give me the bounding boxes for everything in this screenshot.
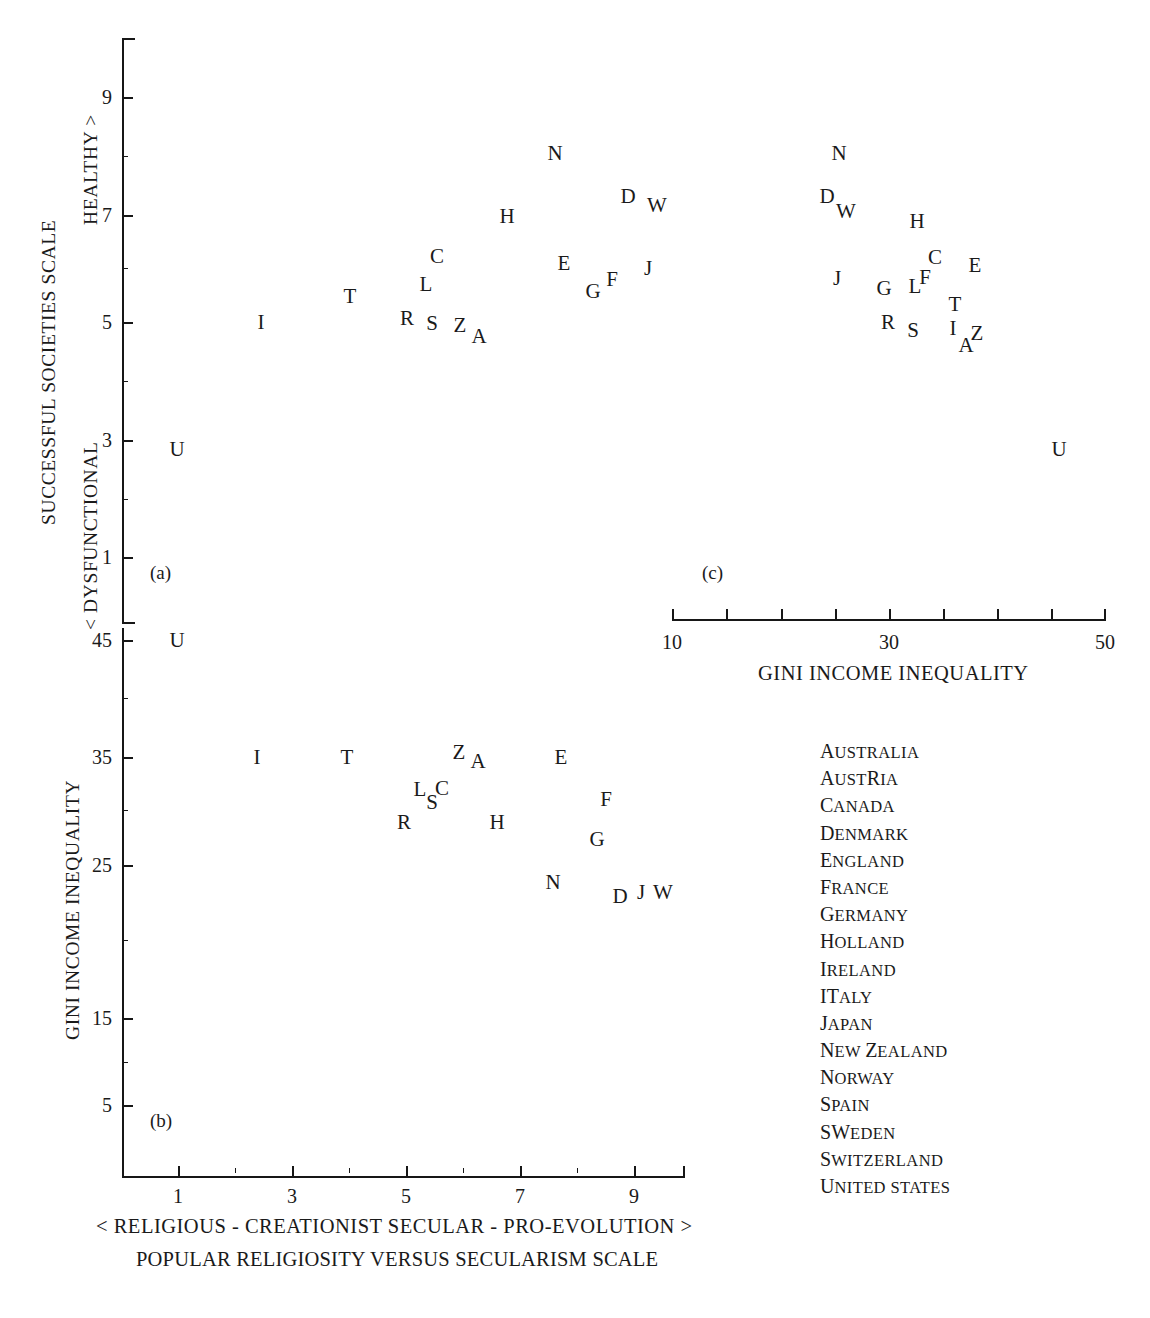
data-point-J: J <box>833 268 841 289</box>
panel-c-tag: (c) <box>702 562 723 584</box>
legend-item: JAPAN <box>820 1010 950 1037</box>
panel-b-xticklabel-5: 5 <box>386 1186 426 1206</box>
legend-rest: USTRALIA <box>834 743 919 762</box>
legend-item: ENGLAND <box>820 847 950 874</box>
data-point-H: H <box>489 812 504 833</box>
panel-a-y-axis-line <box>122 38 124 624</box>
panel-a-tick-minor <box>122 381 128 382</box>
legend-rest2: ALY <box>839 988 872 1007</box>
data-point-H: H <box>499 206 514 227</box>
panel-a-tick-minor <box>122 268 128 269</box>
legend-rest: UST <box>834 770 866 789</box>
panel-a-ticklabel-9: 9 <box>72 87 112 107</box>
data-point-D: D <box>819 186 834 207</box>
panel-b-tick-35 <box>122 757 133 759</box>
legend-item: SWITZERLAND <box>820 1146 950 1173</box>
legend-lead2: Z <box>865 1039 877 1061</box>
legend-rest2: EALAND <box>877 1042 947 1061</box>
data-point-D: D <box>612 886 627 907</box>
panel-a-tick-5 <box>122 322 133 324</box>
panel-a-y-axis-top-cap <box>122 38 135 40</box>
panel-b-xtick-9 <box>634 1166 636 1176</box>
panel-a-tag: (a) <box>150 562 171 584</box>
panel-c-tick <box>835 609 837 619</box>
legend-lead: H <box>820 930 834 952</box>
panel-b-xtick-minor <box>349 1168 350 1173</box>
legend-lead: A <box>820 767 834 789</box>
data-point-I: I <box>258 312 265 333</box>
panel-b-tick-15 <box>122 1018 133 1020</box>
legend-rest: PAIN <box>831 1096 870 1115</box>
legend-lead: U <box>820 1175 834 1197</box>
data-point-U: U <box>169 630 184 651</box>
legend-item: SWEDEN <box>820 1119 950 1146</box>
data-point-W: W <box>836 201 856 222</box>
panel-b-xtick-7 <box>520 1166 522 1176</box>
legend-rest: ERMANY <box>834 906 908 925</box>
legend-rest: ANADA <box>833 797 895 816</box>
panel-a-tick-3 <box>122 440 133 442</box>
panel-c-x-axis-right-cap <box>1104 609 1106 620</box>
legend-item: ITALY <box>820 983 950 1010</box>
legend-lead2: R <box>867 767 880 789</box>
panel-c-x-axis-title: GINI INCOME INEQUALITY <box>758 662 1029 685</box>
data-point-E: E <box>558 253 571 274</box>
legend-item: AUSTRALIA <box>820 738 950 765</box>
data-point-E: E <box>555 747 568 768</box>
panel-c-ticklabel-30: 30 <box>869 632 909 652</box>
legend-lead: F <box>820 876 831 898</box>
data-point-L: L <box>909 276 922 297</box>
legend-lead: D <box>820 822 834 844</box>
panel-c-tick <box>943 609 945 619</box>
legend-item: FRANCE <box>820 874 950 901</box>
figure-root: 9 7 5 3 1 SUCCESSFUL SOCIETIES SCALE HEA… <box>0 0 1150 1318</box>
panel-b-y-axis-title: GINI INCOME INEQUALITY <box>62 780 84 1040</box>
panel-b-tick-5 <box>122 1105 133 1107</box>
panel-b-tick-minor <box>122 1062 128 1063</box>
data-point-R: R <box>400 308 414 329</box>
panel-b-xticklabel-3: 3 <box>272 1186 312 1206</box>
religiosity-scale-ends-label: < RELIGIOUS - CREATIONIST SECULAR - PRO-… <box>96 1215 693 1238</box>
data-point-R: R <box>397 812 411 833</box>
panel-b-y-axis-line <box>122 628 124 1178</box>
religiosity-axis-title: POPULAR RELIGIOSITY VERSUS SECULARISM SC… <box>136 1248 658 1271</box>
legend-lead: S <box>820 1148 831 1170</box>
panel-a-y-axis-title: SUCCESSFUL SOCIETIES SCALE <box>38 220 60 525</box>
panel-b-tick-minor <box>122 698 128 699</box>
data-point-U: U <box>169 439 184 460</box>
panel-a-tick-minor <box>122 499 128 500</box>
data-point-S: S <box>426 792 438 813</box>
data-point-S: S <box>426 313 438 334</box>
legend-item: SPAIN <box>820 1091 950 1118</box>
data-point-W: W <box>653 882 673 903</box>
data-point-G: G <box>876 278 891 299</box>
panel-b-xticklabel-7: 7 <box>500 1186 540 1206</box>
panel-b-tick-minor <box>122 810 128 811</box>
legend-item: AUSTRIA <box>820 765 950 792</box>
legend-rest: WITZERLAND <box>831 1151 943 1170</box>
data-point-I: I <box>950 318 957 339</box>
data-point-N: N <box>545 872 560 893</box>
panel-b-tick-25 <box>122 865 133 867</box>
data-point-F: F <box>600 789 612 810</box>
panel-b-xtick-3 <box>292 1166 294 1176</box>
data-point-G: G <box>585 281 600 302</box>
panel-a-tick-1 <box>122 557 133 559</box>
data-point-T: T <box>949 294 962 315</box>
legend-lead: N <box>820 1039 834 1061</box>
data-point-J: J <box>637 882 645 903</box>
legend-rest: APAN <box>828 1015 873 1034</box>
legend-rest: NGLAND <box>832 852 904 871</box>
panel-a-ticklabel-5: 5 <box>72 312 112 332</box>
panel-c-ticklabel-50: 50 <box>1085 632 1125 652</box>
legend-lead: N <box>820 1066 834 1088</box>
panel-b-ticklabel-35: 35 <box>72 747 112 767</box>
panel-b-tick-minor <box>122 940 128 941</box>
data-point-S: S <box>907 320 919 341</box>
country-legend: AUSTRALIA AUSTRIA CANADA DENMARK ENGLAND… <box>820 738 950 1200</box>
data-point-T: T <box>344 286 357 307</box>
panel-b-xtick-minor <box>577 1168 578 1173</box>
panel-b-tick-45 <box>122 640 133 642</box>
panel-c: (c) 10 30 50 GINI INCOME INEQUALITY N D … <box>600 0 1150 700</box>
panel-b-tag: (b) <box>150 1110 172 1132</box>
